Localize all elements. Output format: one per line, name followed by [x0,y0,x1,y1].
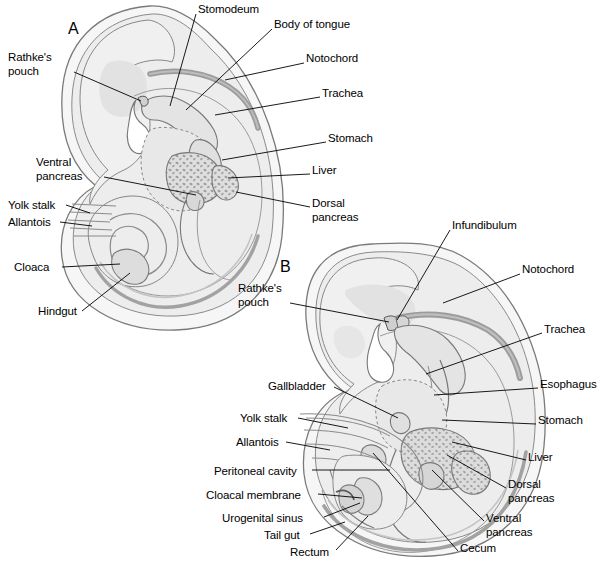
embryo-gut-development-figure: A B StomodeumBody of tongueNotochordTrac… [0,0,601,564]
label-a-dorsal-pancreas: Dorsal pancreas [312,197,359,224]
panel-b-drawing [300,243,545,556]
label-a-hindgut: Hindgut [38,305,77,319]
label-b-yolk-stalk: Yolk stalk [240,412,287,426]
label-b-tail-gut: Tail gut [264,529,300,543]
label-a-body-of-tongue: Body of tongue [274,18,350,32]
panel-letter-b: B [280,258,291,276]
label-b-rathkes-pouch: Rathke's pouch [238,282,282,309]
label-a-cloaca: Cloaca [14,261,49,275]
label-a-yolk-stalk: Yolk stalk [8,199,55,213]
label-a-liver: Liver [312,164,336,178]
label-b-dorsal-pancreas: Dorsal pancreas [508,478,555,505]
label-b-cecum: Cecum [460,542,496,556]
label-b-peritoneal-cavity: Peritoneal cavity [214,465,297,479]
label-b-trachea: Trachea [544,323,585,337]
label-a-stomodeum: Stomodeum [198,3,259,17]
label-a-stomach: Stomach [328,132,373,146]
label-b-infundibulum: Infundibulum [452,219,517,233]
label-b-liver: Liver [528,451,552,465]
label-b-gallbladder: Gallbladder [268,380,326,394]
label-b-urogenital-sinus: Urogenital sinus [222,512,303,526]
label-a-trachea: Trachea [322,87,363,101]
label-b-notochord: Notochord [522,263,574,277]
label-b-cloacal-membrane: Cloacal membrane [206,489,301,503]
label-b-ventral-pancreas: Ventral pancreas [486,512,533,539]
label-b-stomach: Stomach [538,414,583,428]
label-a-ventral-pancreas: Ventral pancreas [36,156,83,183]
label-a-rathkes-pouch: Rathke's pouch [8,51,52,78]
label-b-allantois: Allantois [236,436,279,450]
urogenital-sinus-b [339,485,364,513]
label-b-rectum: Rectum [290,546,329,560]
label-a-allantois: Allantois [8,216,51,230]
label-b-esophagus: Esophagus [540,378,597,392]
panel-letter-a: A [68,20,79,38]
label-a-notochord: Notochord [306,52,358,66]
